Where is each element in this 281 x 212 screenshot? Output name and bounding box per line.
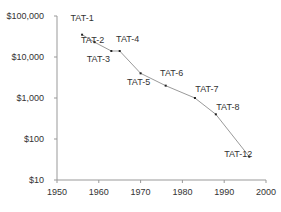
x-tick-label: 1970	[131, 187, 151, 197]
data-markers	[81, 34, 250, 158]
y-tick-label: $100	[24, 134, 44, 144]
data-point	[215, 113, 217, 115]
point-label: TAT-1	[70, 13, 93, 23]
x-tick-label: 1950	[47, 187, 67, 197]
point-label: TAT-3	[87, 54, 110, 64]
x-tick-label: 1980	[172, 187, 192, 197]
data-point	[110, 50, 112, 52]
data-point	[119, 50, 121, 52]
point-label: TAT-6	[160, 68, 183, 78]
y-tick-label: $1,000	[16, 93, 44, 103]
data-line	[82, 35, 249, 157]
x-tick-label: 1990	[214, 187, 234, 197]
data-point	[140, 72, 142, 74]
y-tick-label: $10	[29, 175, 44, 185]
point-label: TAT-4	[116, 34, 139, 44]
y-tick-label: $10,000	[11, 52, 44, 62]
x-tick-label: 1960	[89, 187, 109, 197]
x-tick-label: 2000	[256, 187, 276, 197]
data-point	[194, 97, 196, 99]
cost-chart: 195019601970198019902000$10$100$1,000$10…	[0, 0, 281, 212]
point-label: TAT-7	[195, 84, 218, 94]
point-labels: TAT-1TAT-2TAT-3TAT-4TAT-5TAT-6TAT-7TAT-8…	[70, 13, 252, 159]
point-label: TAT-8	[216, 102, 239, 112]
y-tick-label: $100,000	[6, 11, 44, 21]
point-label: TAT-12	[224, 149, 252, 159]
point-label: TAT-2	[81, 35, 104, 45]
point-label: TAT-5	[127, 77, 150, 87]
data-point	[165, 85, 167, 87]
